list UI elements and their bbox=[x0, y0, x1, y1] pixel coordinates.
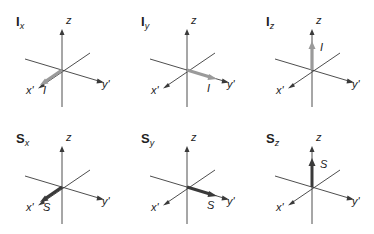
spin-vector-shaft bbox=[187, 187, 210, 194]
y-axis-label: y' bbox=[102, 78, 110, 90]
spin-vector-arrowhead-icon bbox=[309, 41, 316, 49]
z-axis-arrowhead-icon bbox=[185, 29, 190, 35]
z-axis-arrowhead-icon bbox=[185, 146, 190, 152]
spin-vector-arrow bbox=[187, 187, 217, 197]
x-axis bbox=[40, 170, 90, 204]
panel-title: Ix bbox=[16, 14, 24, 29]
y-axis-label: y' bbox=[227, 78, 235, 90]
panel-title-subscript: y bbox=[145, 21, 150, 31]
spin-panel-Ix: Ix z x' y' I bbox=[2, 2, 126, 119]
spin-vector-arrowhead-icon bbox=[309, 158, 316, 166]
vector-label: S bbox=[320, 158, 327, 170]
x-axis-label: x' bbox=[151, 201, 159, 213]
spin-panel-Iy: Iy z x' y' I bbox=[127, 2, 251, 119]
y-axis-label: y' bbox=[352, 78, 360, 90]
x-axis-label: x' bbox=[276, 84, 284, 96]
z-axis-arrowhead-icon bbox=[310, 146, 315, 152]
x-axis-label: x' bbox=[151, 84, 159, 96]
panel-title-subscript: x bbox=[25, 138, 30, 148]
spin-panel-Sz: Sz z x' y' S bbox=[252, 119, 374, 234]
z-axis-arrowhead-icon bbox=[60, 29, 65, 35]
x-axis-label: x' bbox=[26, 201, 34, 213]
spin-vector-shaft bbox=[187, 70, 210, 77]
vector-label: I bbox=[43, 84, 46, 96]
spin-vector-arrow bbox=[187, 70, 217, 80]
spin-vector-arrow bbox=[40, 187, 62, 202]
panel-title: Iy bbox=[141, 14, 149, 29]
y-axis bbox=[25, 176, 102, 199]
spin-vector-arrowhead-icon bbox=[208, 191, 218, 197]
x-axis-label: x' bbox=[26, 84, 34, 96]
z-axis-label: z bbox=[66, 131, 72, 143]
panel-title: Sz bbox=[266, 131, 279, 146]
y-axis-label: y' bbox=[227, 195, 235, 207]
y-axis bbox=[25, 59, 102, 82]
z-axis-label: z bbox=[316, 131, 322, 143]
x-axis bbox=[290, 170, 340, 204]
z-axis-arrowhead-icon bbox=[60, 146, 65, 152]
z-axis-label: z bbox=[316, 14, 322, 26]
panel-title-main: S bbox=[266, 131, 275, 146]
panel-title-subscript: y bbox=[150, 138, 155, 148]
panel-title-subscript: z bbox=[270, 21, 275, 31]
spin-panel-Iz: Iz z x' y' I bbox=[252, 2, 374, 119]
spin-panel-Sy: Sy z x' y' S bbox=[127, 119, 251, 234]
vector-label: I bbox=[320, 41, 323, 53]
y-axis-label: y' bbox=[102, 195, 110, 207]
spin-vector-shaft bbox=[46, 70, 62, 81]
panel-title-main: S bbox=[16, 131, 25, 146]
vector-label: S bbox=[207, 199, 214, 211]
z-axis-arrowhead-icon bbox=[310, 29, 315, 35]
panel-title-subscript: x bbox=[20, 21, 25, 31]
z-axis-label: z bbox=[191, 14, 197, 26]
spin-vector-arrow bbox=[309, 41, 316, 70]
vector-label: I bbox=[207, 82, 210, 94]
panel-title: Sy bbox=[141, 131, 154, 146]
x-axis bbox=[290, 53, 340, 87]
panel-title: Iz bbox=[266, 14, 274, 29]
spin-vector-arrow bbox=[40, 70, 62, 85]
panel-title-main: S bbox=[141, 131, 150, 146]
x-axis-label: x' bbox=[276, 201, 284, 213]
spin-vector-arrow bbox=[309, 158, 316, 187]
panel-title-subscript: z bbox=[275, 138, 280, 148]
panel-title: Sx bbox=[16, 131, 29, 146]
vector-label: S bbox=[43, 201, 50, 213]
y-axis-label: y' bbox=[352, 195, 360, 207]
spin-vector-arrowhead-icon bbox=[208, 74, 218, 80]
z-axis-label: z bbox=[191, 131, 197, 143]
spin-vector-shaft bbox=[46, 187, 62, 198]
z-axis-label: z bbox=[66, 14, 72, 26]
spin-panel-Sx: Sx z x' y' S bbox=[2, 119, 126, 234]
